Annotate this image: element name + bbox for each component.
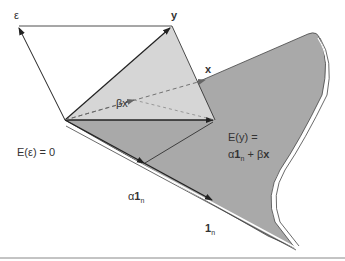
- epsilon-label: ε: [14, 9, 19, 21]
- column-space-plane: [65, 33, 326, 248]
- alpha-one-label: α1n: [128, 190, 144, 207]
- one-label: 1n: [205, 222, 215, 239]
- expected-y-label-line2: α1n + βx: [228, 148, 269, 165]
- expected-y-label-line1: E(y) =: [228, 131, 258, 143]
- beta-x-label: βx: [116, 97, 128, 109]
- x-label: x: [205, 63, 211, 75]
- projection-triangle: [65, 26, 215, 120]
- origin-label: E(ε) = 0: [17, 146, 55, 158]
- y-label: y: [171, 9, 177, 21]
- vector-diagram: [0, 0, 345, 261]
- epsilon-vector: [19, 28, 65, 120]
